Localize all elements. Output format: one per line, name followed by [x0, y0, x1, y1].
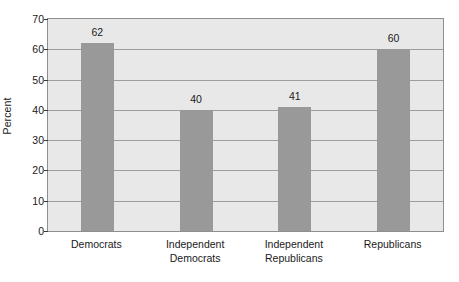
y-axis-title: Percent — [0, 0, 14, 232]
y-axis-tick-mark — [44, 19, 48, 20]
x-axis-category-label-line: Independent — [265, 238, 323, 250]
bar — [377, 49, 410, 231]
y-axis-tick-label: 10 — [14, 195, 44, 206]
bar-chart: Percent 010203040506070 62404160 Democra… — [0, 0, 459, 282]
y-axis-tick-labels: 010203040506070 — [14, 18, 44, 232]
y-axis-tick-label: 40 — [14, 105, 44, 116]
bar-value-label: 41 — [265, 91, 325, 102]
x-axis-category-label: Democrats — [47, 237, 146, 251]
y-axis-tick-mark — [44, 170, 48, 171]
y-axis-tick-mark — [44, 49, 48, 50]
y-axis-tick-label: 0 — [14, 226, 44, 237]
y-axis-tick-label: 50 — [14, 74, 44, 85]
x-axis-category-label-line: Democrats — [71, 238, 122, 250]
x-axis-category-label-line: Republicans — [364, 238, 422, 250]
plot-inner: 62404160 — [48, 19, 443, 231]
x-axis-category-label-line: Democrats — [146, 251, 245, 265]
x-axis-category-label-line: Independent — [166, 238, 224, 250]
y-axis-tick-label: 60 — [14, 44, 44, 55]
x-axis-category-label-line: Republicans — [245, 251, 344, 265]
bar-value-label: 40 — [166, 94, 226, 105]
y-axis-tick-mark — [44, 80, 48, 81]
bar — [180, 110, 213, 231]
y-axis-tick-mark — [44, 201, 48, 202]
bar-value-label: 62 — [67, 27, 127, 38]
y-axis-tick-mark — [44, 110, 48, 111]
x-axis-category-label: IndependentDemocrats — [146, 237, 245, 265]
x-axis-category-labels: DemocratsIndependentDemocratsIndependent… — [47, 237, 444, 281]
y-axis-tick-label: 20 — [14, 165, 44, 176]
y-axis-tick-label: 30 — [14, 135, 44, 146]
x-axis-category-label: IndependentRepublicans — [245, 237, 344, 265]
y-axis-tick-mark — [44, 231, 48, 232]
plot-area: 62404160 — [47, 18, 444, 232]
y-axis-tick-mark — [44, 140, 48, 141]
y-axis-tick-label: 70 — [14, 14, 44, 25]
bar — [81, 43, 114, 231]
bar-value-label: 60 — [364, 33, 424, 44]
bar — [278, 107, 311, 231]
y-axis-title-text: Percent — [1, 98, 13, 135]
x-axis-category-label: Republicans — [343, 237, 442, 251]
